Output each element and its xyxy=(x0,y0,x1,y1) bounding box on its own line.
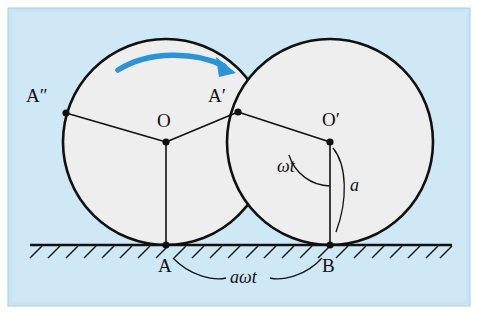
label-B: B xyxy=(322,256,335,275)
label-omega-t: ωt xyxy=(277,157,295,175)
point-O-prime-dot xyxy=(326,138,333,145)
label-a: a xyxy=(350,176,359,194)
point-A-prime-dot xyxy=(234,108,241,115)
label-A-double-prime: A″ xyxy=(26,86,48,105)
point-O-dot xyxy=(162,138,169,145)
label-a-omega-t: aωt xyxy=(230,268,257,286)
point-A-dot xyxy=(162,241,169,248)
diagram-canvas: A″ A′ O O′ A B ωt a aωt xyxy=(0,0,478,314)
label-A: A xyxy=(158,256,172,275)
label-O: O xyxy=(157,111,171,130)
point-B-dot xyxy=(326,241,333,248)
label-A-prime: A′ xyxy=(208,86,226,105)
label-O-prime: O′ xyxy=(322,110,340,129)
point-A-double-prime-dot xyxy=(62,109,69,116)
